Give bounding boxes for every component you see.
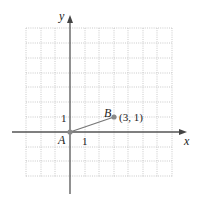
y-tick-one: 1 — [61, 112, 67, 124]
x-axis-label: x — [183, 134, 190, 148]
point-a-label: A — [57, 133, 66, 147]
grid — [26, 28, 172, 177]
point-b-coordinates: (3, 1) — [119, 111, 143, 124]
x-axis — [12, 129, 187, 135]
point-b-label: B — [104, 106, 112, 120]
x-tick-one: 1 — [82, 135, 88, 147]
coordinate-plane: y x 1 1 A B (3, 1) — [0, 0, 204, 202]
point-a — [67, 129, 72, 134]
y-axis — [67, 15, 73, 194]
y-axis-label: y — [58, 9, 65, 23]
point-b — [111, 114, 116, 119]
